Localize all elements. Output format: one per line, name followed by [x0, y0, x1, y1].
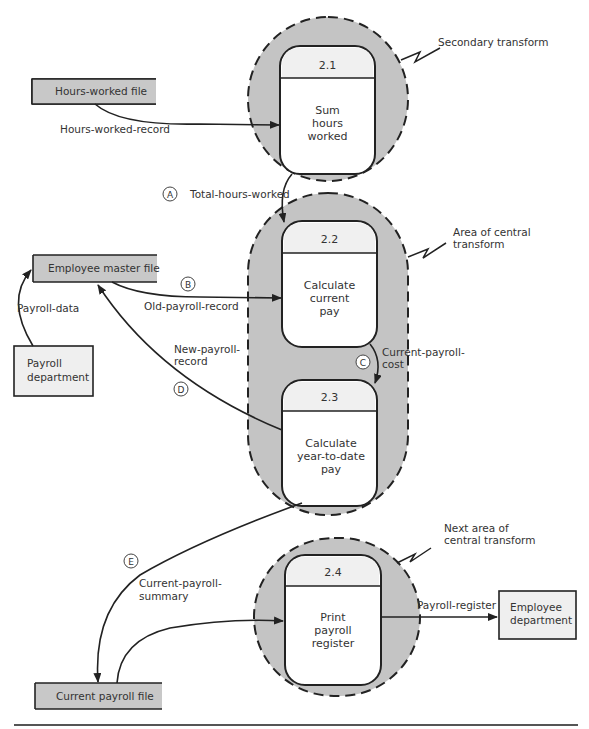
flow-label: Hours-worked-record	[60, 123, 170, 135]
process-name: pay	[321, 463, 342, 476]
flow-label: Current-payroll-	[382, 346, 465, 358]
process-2-4[interactable]: 2.4 Print payroll register	[285, 555, 381, 685]
flow-label: Old-payroll-record	[144, 300, 239, 312]
process-2-1[interactable]: 2.1 Sum hours worked	[280, 46, 375, 174]
process-id: 2.1	[319, 59, 337, 72]
data-store-hours-worked-file[interactable]: Hours-worked file	[32, 79, 156, 104]
external-entity-label: department	[510, 614, 572, 626]
flow-marker: A	[167, 190, 174, 200]
process-id: 2.3	[321, 391, 339, 404]
data-store-employee-master-file[interactable]: Employee master file	[33, 255, 160, 282]
flow-label: cost	[382, 358, 404, 370]
process-name: pay	[319, 305, 340, 318]
external-entity-label: department	[27, 371, 89, 383]
annotation-pointer-icon	[397, 548, 431, 563]
process-name: current	[310, 292, 350, 305]
annotation-label: Area of central	[453, 226, 531, 238]
data-flow-diagram: 2.1 Sum hours worked 2.2 Calculate curre…	[0, 0, 589, 729]
flow-label: Current-payroll-	[139, 577, 222, 589]
annotation-label: central transform	[444, 534, 536, 546]
data-store-current-payroll-file[interactable]: Current payroll file	[35, 683, 162, 709]
flow-marker: C	[360, 358, 366, 368]
flow-label: record	[174, 355, 208, 367]
annotation-pointer-icon	[401, 48, 440, 62]
process-name: Calculate	[305, 437, 357, 450]
flow-label: Total-hours-worked	[189, 188, 290, 200]
flow-marker: D	[178, 385, 185, 395]
process-2-3[interactable]: 2.3 Calculate year-to-date pay	[282, 380, 377, 506]
flow-label: summary	[139, 590, 189, 602]
flow-label: New-payroll-	[174, 343, 240, 355]
annotation-label: Next area of	[444, 522, 509, 534]
process-id: 2.4	[324, 566, 342, 579]
process-name: year-to-date	[297, 450, 365, 463]
data-store-label: Hours-worked file	[55, 85, 147, 97]
data-store-label: Employee master file	[48, 262, 160, 274]
process-name: register	[312, 637, 355, 650]
external-entity-label: Employee	[510, 601, 562, 613]
process-name: Print	[320, 611, 346, 624]
process-id: 2.2	[321, 233, 339, 246]
process-name: Sum	[315, 104, 340, 117]
external-entity-payroll-department[interactable]: Payroll department	[14, 346, 93, 396]
annotation-pointer-icon	[408, 243, 446, 258]
flow-label: Payroll-register	[417, 599, 497, 611]
process-2-2[interactable]: 2.2 Calculate current pay	[282, 221, 377, 347]
flow-label: Payroll-data	[17, 302, 79, 314]
data-store-label: Current payroll file	[56, 690, 154, 702]
process-name: payroll	[314, 624, 351, 637]
annotation-label: transform	[453, 238, 504, 250]
annotation-label: Secondary transform	[438, 36, 548, 48]
process-name: Calculate	[304, 279, 356, 292]
process-name: hours	[312, 117, 343, 130]
external-entity-label: Payroll	[27, 357, 62, 369]
flow-marker: E	[128, 557, 134, 567]
flow-marker: B	[185, 280, 191, 290]
external-entity-employee-department[interactable]: Employee department	[499, 591, 576, 639]
process-name: worked	[308, 130, 348, 143]
